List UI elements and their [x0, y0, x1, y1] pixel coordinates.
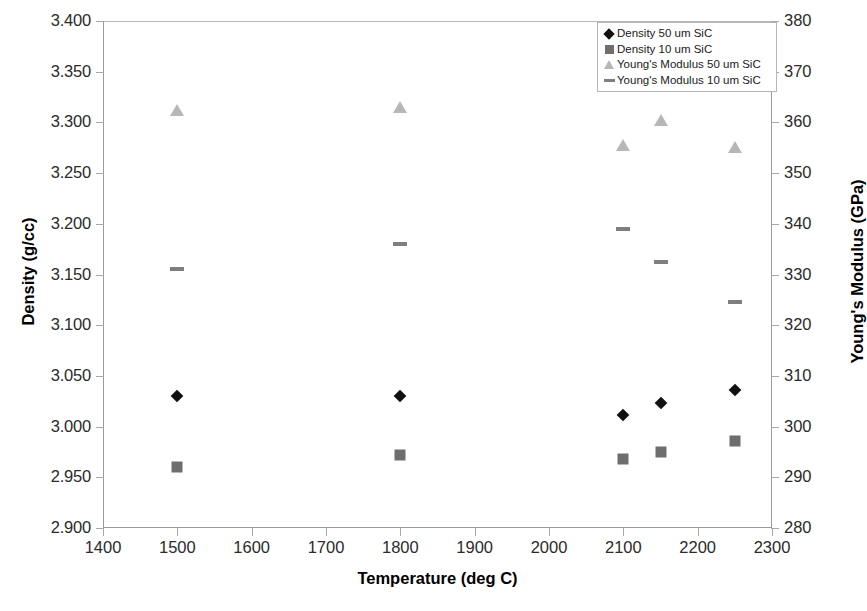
y-tick-primary	[96, 275, 104, 276]
square-marker-icon	[602, 43, 616, 56]
y-tick-label-primary: 3.300	[51, 112, 91, 131]
y-tick-label-secondary: 360	[784, 112, 812, 131]
data-point-square	[655, 446, 666, 457]
y-tick-label-primary: 2.950	[51, 467, 91, 486]
x-tick	[549, 528, 550, 536]
x-tick	[103, 528, 104, 536]
legend-item-label: Density 50 um SiC	[617, 27, 712, 40]
chart-legend: Density 50 um SiCDensity 10 um SiCYoung'…	[597, 22, 777, 92]
y-tick-label-primary: 3.050	[51, 366, 91, 385]
data-point-triangle	[728, 141, 742, 153]
y-tick-primary	[96, 122, 104, 123]
y-tick-secondary	[771, 122, 779, 123]
y-axis-title-primary: Density (g/cc)	[19, 182, 38, 362]
legend-item[interactable]: Density 50 um SiC	[602, 26, 772, 42]
y-tick-label-primary: 3.200	[51, 214, 91, 233]
plot-area	[103, 21, 772, 528]
x-tick-label: 2200	[679, 538, 716, 557]
y-tick-primary	[96, 325, 104, 326]
x-tick-label: 1600	[233, 538, 270, 557]
diamond-marker-icon	[602, 27, 616, 40]
legend-item-label: Young's Modulus 50 um SiC	[617, 58, 761, 71]
y-tick-label-secondary: 310	[784, 366, 812, 385]
x-tick-label: 1700	[308, 538, 345, 557]
x-tick-label: 2300	[754, 538, 791, 557]
data-point-triangle	[616, 139, 630, 151]
y-tick-secondary	[771, 224, 779, 225]
x-axis-title: Temperature (deg C)	[103, 569, 772, 588]
legend-item[interactable]: Young's Modulus 10 um SiC	[602, 73, 772, 89]
y-tick-primary	[96, 173, 104, 174]
y-tick-label-primary: 3.000	[51, 417, 91, 436]
y-tick-secondary	[771, 173, 779, 174]
data-point-square	[729, 435, 740, 446]
y-tick-primary	[96, 224, 104, 225]
y-tick-label-secondary: 340	[784, 214, 812, 233]
x-tick	[177, 528, 178, 536]
data-point-square	[395, 449, 406, 460]
x-tick	[400, 528, 401, 536]
dash-marker-icon	[602, 74, 616, 87]
x-tick-label: 2000	[531, 538, 568, 557]
y-tick-secondary	[771, 325, 779, 326]
triangle-marker-icon	[602, 58, 616, 71]
x-tick-label: 1800	[382, 538, 419, 557]
data-point-triangle	[170, 104, 184, 116]
data-point-triangle	[654, 114, 668, 126]
y-axis-title-secondary: Young's Modulus (GPa)	[848, 157, 867, 387]
y-tick-primary	[96, 72, 104, 73]
y-tick-label-secondary: 350	[784, 163, 812, 182]
y-tick-secondary	[771, 275, 779, 276]
data-point-dash	[728, 300, 742, 304]
x-tick	[623, 528, 624, 536]
y-tick-label-secondary: 320	[784, 315, 812, 334]
y-tick-label-primary: 3.100	[51, 315, 91, 334]
data-point-square	[618, 454, 629, 465]
legend-item[interactable]: Density 10 um SiC	[602, 42, 772, 58]
x-tick	[326, 528, 327, 536]
data-point-dash	[170, 267, 184, 271]
legend-item[interactable]: Young's Modulus 50 um SiC	[602, 57, 772, 73]
y-tick-label-secondary: 290	[784, 467, 812, 486]
y-tick-label-secondary: 370	[784, 62, 812, 81]
y-tick-label-secondary: 330	[784, 265, 812, 284]
y-tick-label-secondary: 300	[784, 417, 812, 436]
y-tick-label-primary: 3.150	[51, 265, 91, 284]
y-tick-primary	[96, 427, 104, 428]
x-tick	[698, 528, 699, 536]
data-point-dash	[393, 242, 407, 246]
x-tick-label: 1500	[159, 538, 196, 557]
data-point-square	[172, 462, 183, 473]
y-tick-label-secondary: 280	[784, 518, 812, 537]
x-tick	[772, 528, 773, 536]
y-tick-secondary	[771, 427, 779, 428]
y-tick-primary	[96, 477, 104, 478]
data-point-dash	[654, 260, 668, 264]
y-tick-secondary	[771, 376, 779, 377]
data-point-triangle	[393, 101, 407, 113]
data-point-dash	[616, 227, 630, 231]
y-tick-secondary	[771, 477, 779, 478]
legend-item-label: Density 10 um SiC	[617, 43, 712, 56]
y-tick-primary	[96, 376, 104, 377]
y-tick-label-primary: 3.250	[51, 163, 91, 182]
y-tick-primary	[96, 21, 104, 22]
y-tick-label-primary: 3.400	[51, 11, 91, 30]
y-tick-label-secondary: 380	[784, 11, 812, 30]
x-tick	[252, 528, 253, 536]
legend-item-label: Young's Modulus 10 um SiC	[617, 74, 761, 87]
x-tick-label: 1900	[456, 538, 493, 557]
x-tick-label: 1400	[85, 538, 122, 557]
x-tick	[475, 528, 476, 536]
x-tick-label: 2100	[605, 538, 642, 557]
y-tick-label-primary: 2.900	[51, 518, 91, 537]
y-tick-label-primary: 3.350	[51, 62, 91, 81]
